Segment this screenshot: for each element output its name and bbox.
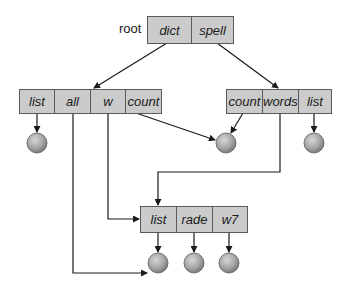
file-node-circle [304, 133, 324, 153]
file-node-circle [219, 253, 239, 273]
list-entry-list: list [141, 207, 177, 232]
dict-directory-node: list all w count [19, 89, 162, 114]
spell-entry-list: list [299, 90, 331, 113]
file-node-circle [184, 253, 204, 273]
list-entry-w7: w7 [213, 207, 247, 232]
dict-entry-count: count [126, 90, 161, 113]
spell-entry-words: words [263, 90, 299, 113]
root-directory-node: dict spell [147, 16, 234, 44]
root-entry-spell: spell [192, 17, 233, 43]
spell-entry-count: count [227, 90, 263, 113]
dict-entry-all: all [55, 90, 91, 113]
list-directory-node: list rade w7 [140, 206, 248, 233]
list-entry-rade: rade [177, 207, 213, 232]
root-label: root [119, 21, 141, 36]
file-node-circle [27, 133, 47, 153]
file-node-circle [216, 133, 236, 153]
spell-directory-node: count words list [226, 89, 332, 114]
file-node-circle [148, 253, 168, 273]
root-entry-dict: dict [148, 17, 192, 43]
dict-entry-list: list [20, 90, 55, 113]
directory-graph-diagram: root dict spell list all w count count w… [0, 0, 346, 288]
dict-entry-w: w [91, 90, 126, 113]
